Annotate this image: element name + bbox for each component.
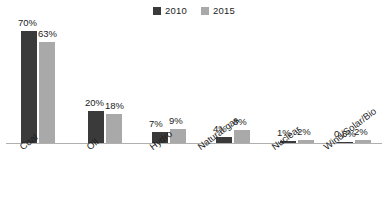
chart-legend: 2010 2015 — [0, 6, 388, 16]
value-label-2010: 20% — [85, 98, 104, 108]
bar-2010-coal[interactable] — [21, 31, 37, 143]
bar-pair — [21, 23, 55, 143]
bar-2015-nuclear[interactable] — [298, 140, 314, 143]
plot-area: 70%63%20%18%7%9%4%8%1%2%0.8%2% — [0, 22, 388, 144]
bar-group — [21, 23, 55, 143]
bar-2015-natural-gas[interactable] — [234, 130, 250, 143]
bar-2015-wind-solar-bio[interactable] — [355, 140, 371, 143]
legend-label-2010: 2010 — [165, 6, 187, 16]
bar-pair — [88, 23, 122, 143]
value-label-2015: 9% — [169, 116, 183, 126]
value-label-2015: 63% — [38, 29, 57, 39]
legend-item-2010[interactable]: 2010 — [153, 6, 187, 16]
legend-item-2015[interactable]: 2015 — [201, 6, 235, 16]
x-axis-category-labels: CoalOilHydroNatural gasNuclearWind/Solar… — [0, 144, 388, 222]
value-label-2010: 70% — [18, 18, 37, 28]
bar-2015-oil[interactable] — [106, 114, 122, 143]
bar-2015-coal[interactable] — [39, 42, 55, 143]
legend-swatch-2010 — [153, 7, 161, 15]
legend-swatch-2015 — [201, 7, 209, 15]
value-label-2010: 7% — [149, 119, 163, 129]
bar-chart: 2010 2015 70%63%20%18%7%9%4%8%1%2%0.8%2%… — [0, 0, 388, 222]
bar-group — [88, 23, 122, 143]
value-label-2015: 18% — [105, 101, 124, 111]
legend-label-2015: 2015 — [213, 6, 235, 16]
